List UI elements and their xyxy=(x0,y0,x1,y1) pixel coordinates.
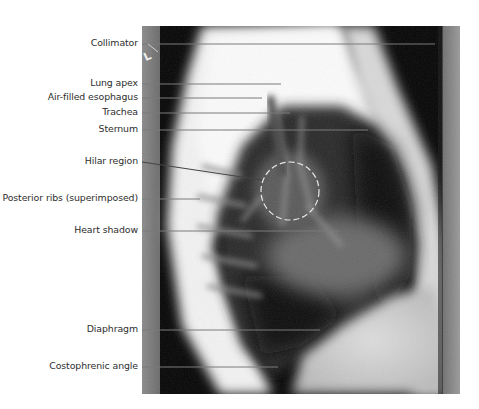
label-lung-apex: Lung apex xyxy=(90,77,138,89)
label-hilar-region: Hilar region xyxy=(85,155,138,167)
labeled-chest-xray-figure: L Collimator Lung apex Air-filled esopha… xyxy=(0,0,479,409)
label-heart-shadow: Heart shadow xyxy=(74,224,138,236)
label-sternum: Sternum xyxy=(99,123,138,135)
label-trachea: Trachea xyxy=(102,106,138,118)
label-posterior-ribs: Posterior ribs (superimposed) xyxy=(2,192,138,204)
label-diaphragm: Diaphragm xyxy=(87,323,138,335)
label-air-filled-esophagus: Air-filled esophagus xyxy=(48,91,138,103)
label-collimator: Collimator xyxy=(91,37,138,49)
lateral-chest-radiograph xyxy=(142,26,460,394)
label-costophrenic-angle: Costophrenic angle xyxy=(49,360,138,372)
